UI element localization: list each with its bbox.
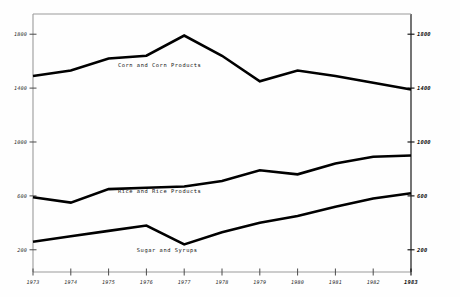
line-chart-figure: 180014001000600200 180014001000600200 19…: [0, 0, 460, 297]
x-tick-label: 1977: [178, 279, 192, 285]
x-tick-label: 1974: [64, 279, 77, 285]
x-tick-label: 1976: [140, 279, 153, 285]
y-tick-label-left: 200: [17, 247, 27, 253]
y-tick-label-left: 1400: [14, 85, 27, 91]
chart-canvas: 180014001000600200 180014001000600200 19…: [0, 0, 460, 297]
x-tick-label: 1979: [253, 279, 266, 285]
series-line-0: [33, 36, 411, 90]
y-tick-label-right: 1800: [417, 31, 431, 37]
y-tick-label-right: 600: [417, 193, 428, 199]
x-tick-label: 1983: [404, 279, 418, 285]
y-tick-label-right: 1400: [417, 85, 431, 91]
y-tick-label-right: 1000: [417, 139, 431, 145]
series-label-2: Sugar and Syrups: [137, 247, 198, 254]
y-tick-label-left: 1800: [14, 31, 27, 37]
x-tick-label: 1978: [215, 279, 228, 285]
y-tick-label-left: 1000: [14, 139, 27, 145]
x-axis-ticks: 1973197419751976197719781979198019811982…: [26, 269, 417, 286]
series-annotation-group: Corn and Corn ProductsRice and Rice Prod…: [118, 62, 202, 254]
series-line-1: [33, 155, 411, 202]
x-tick-label: 1982: [367, 279, 380, 285]
data-series-group: [33, 36, 411, 245]
x-tick-label: 1980: [291, 279, 304, 285]
y-tick-label-right: 200: [416, 247, 428, 253]
x-tick-label: 1973: [26, 279, 39, 285]
series-label-0: Corn and Corn Products: [118, 62, 202, 68]
x-tick-label: 1975: [102, 279, 115, 285]
series-label-1: Rice and Rice Products: [118, 188, 202, 194]
y-tick-label-left: 600: [17, 193, 27, 199]
series-line-2: [33, 193, 411, 244]
x-tick-label: 1981: [329, 279, 342, 285]
